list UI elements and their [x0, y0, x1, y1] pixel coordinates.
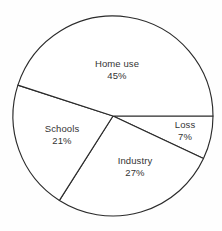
pie-label-home-use: Home use45% [95, 58, 139, 81]
pie-chart-graphic [0, 0, 222, 231]
pie-label-value: 27% [118, 166, 153, 178]
pie-label-industry: Industry27% [118, 155, 153, 178]
pie-label-name: Schools [45, 123, 80, 135]
pie-label-schools: Schools21% [45, 123, 80, 146]
pie-slice-group [13, 16, 213, 216]
pie-label-value: 7% [175, 130, 195, 142]
pie-label-name: Industry [118, 155, 153, 167]
pie-label-name: Loss [175, 119, 195, 131]
pie-chart: Loss7%Industry27%Schools21%Home use45% [0, 0, 222, 231]
pie-label-value: 21% [45, 134, 80, 146]
pie-label-loss: Loss7% [175, 119, 195, 142]
pie-label-value: 45% [95, 69, 139, 81]
pie-label-name: Home use [95, 58, 139, 70]
